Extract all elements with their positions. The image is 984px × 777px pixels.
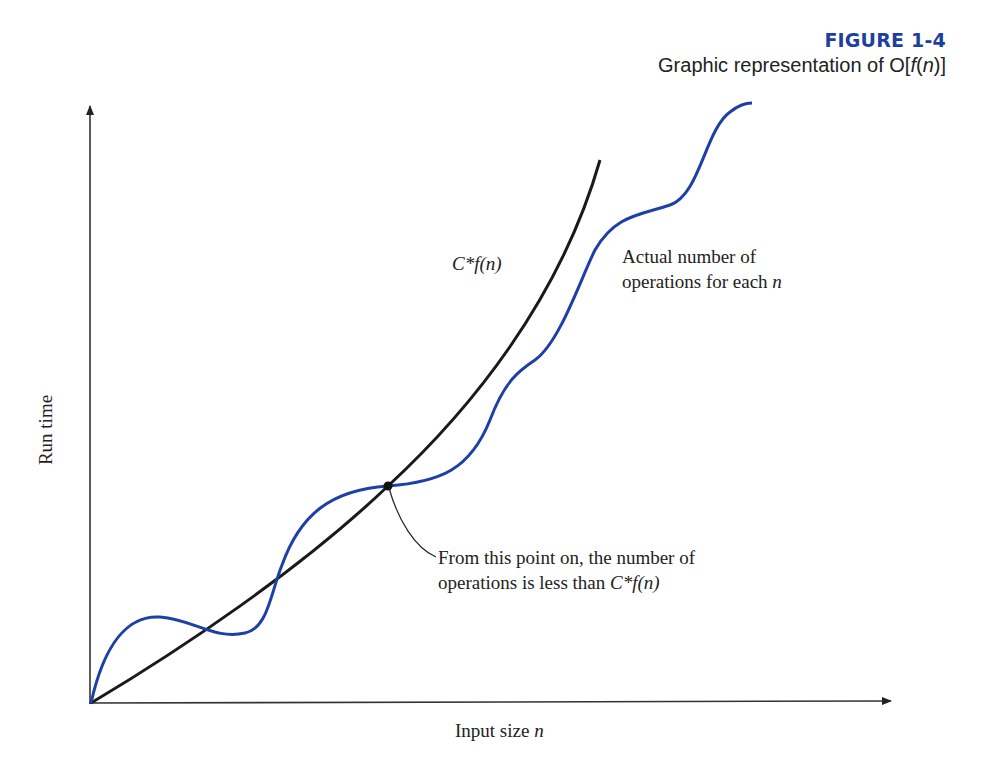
intersection-point: [384, 482, 393, 491]
y-axis-label: Run time: [35, 395, 57, 465]
actual-label-line2-text: operations for each: [622, 271, 772, 292]
x-axis-label: Input size n: [455, 718, 544, 743]
cfn-label-text: C*f(n): [452, 253, 502, 274]
x-axis: [89, 701, 891, 703]
actual-operations-label: Actual number of operations for each n: [622, 244, 782, 294]
actual-label-line1: Actual number of: [622, 244, 782, 269]
cfn-label: C*f(n): [452, 251, 502, 276]
callout-line2-var: C*f(n): [610, 572, 660, 593]
actual-operations-curve: [91, 103, 752, 703]
x-axis-label-var: n: [534, 720, 544, 741]
callout-line2: operations is less than C*f(n): [438, 570, 695, 595]
plot-area: [0, 0, 984, 777]
x-axis-label-text: Input size: [455, 720, 534, 741]
callout-leader: [389, 488, 436, 557]
cfn-curve: [91, 160, 600, 703]
callout-line2-text: operations is less than: [438, 572, 610, 593]
actual-label-line2: operations for each n: [622, 269, 782, 294]
actual-label-line2-var: n: [772, 271, 782, 292]
callout-line1: From this point on, the number of: [438, 545, 695, 570]
callout-label: From this point on, the number of operat…: [438, 545, 695, 595]
